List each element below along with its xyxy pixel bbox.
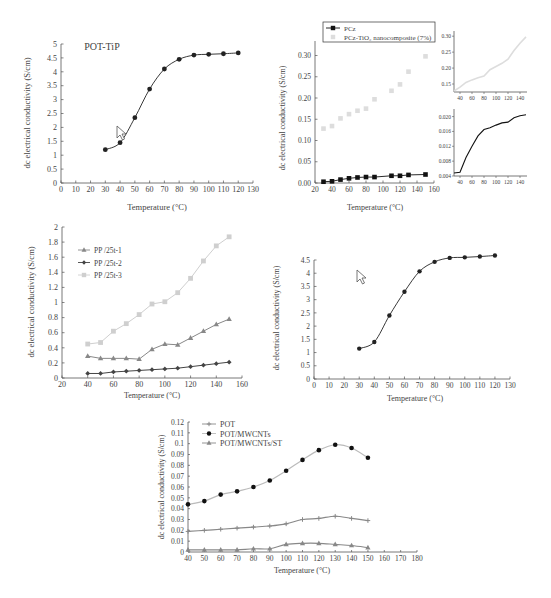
data-point — [432, 260, 436, 264]
x-tick-label: 40 — [457, 179, 463, 185]
legend-label: POT — [220, 420, 235, 429]
x-tick-label: 20 — [340, 381, 348, 390]
legend-label: POT/MWCNTs/ST — [220, 439, 282, 448]
y-tick-label: 3 — [306, 295, 310, 304]
legend-label: PP /25t-1 — [94, 246, 122, 255]
data-point — [221, 51, 226, 56]
data-point — [357, 346, 361, 350]
data-point — [364, 106, 369, 111]
y-tick-label: 0.004 — [439, 173, 452, 179]
x-tick-label: 120 — [489, 381, 501, 390]
y-tick-label: 0.25 — [298, 72, 311, 81]
data-point — [162, 341, 167, 346]
legend-item: POT — [202, 420, 235, 429]
y-tick-label: 4.5 — [301, 256, 311, 265]
data-point — [333, 442, 338, 447]
y-tick-label: 0.09 — [171, 450, 184, 459]
data-point — [188, 364, 193, 369]
x-tick-label: 70 — [416, 381, 424, 390]
x-tick-label: 60 — [401, 381, 409, 390]
data-point — [398, 82, 403, 87]
y-tick-label: 1.5 — [301, 335, 311, 344]
y-tick-label: 0 — [53, 179, 57, 188]
data-point — [132, 115, 137, 120]
data-point — [124, 369, 129, 374]
figure: 010203040506070809010011012013000.511.52… — [0, 0, 551, 598]
x-tick-label: 80 — [481, 95, 487, 101]
y-tick-label: 1 — [54, 298, 58, 307]
data-point — [188, 276, 193, 281]
data-point — [372, 97, 377, 102]
figure-caption — [22, 585, 532, 591]
data-point — [330, 124, 335, 129]
y-tick-label: 2 — [306, 322, 310, 331]
data-point — [207, 431, 211, 435]
x-tick-label: 100 — [492, 95, 501, 101]
data-point — [355, 108, 360, 113]
y-tick-label: 0.11 — [171, 429, 184, 438]
x-tick-label: 30 — [355, 381, 363, 390]
data-point — [82, 247, 87, 251]
data-point — [347, 176, 352, 181]
y-tick-label: 0 — [54, 374, 58, 383]
x-tick-label: 60 — [469, 179, 475, 185]
legend-label: PCz — [344, 25, 356, 33]
inset-line — [454, 37, 526, 91]
data-point — [82, 260, 86, 264]
y-tick-label: 0.016 — [439, 128, 452, 134]
data-point — [372, 340, 376, 344]
data-point — [111, 370, 116, 375]
data-point — [137, 312, 142, 317]
data-point — [175, 366, 180, 371]
series-pcz — [321, 172, 428, 184]
x-tick-label: 10 — [72, 185, 80, 194]
y-tick-label: 0 — [180, 548, 184, 557]
data-point — [478, 254, 482, 258]
y-tick-label: 1.5 — [47, 137, 57, 146]
x-tick-label: 130 — [330, 554, 342, 563]
data-point — [227, 234, 232, 239]
x-tick-label: 40 — [457, 95, 463, 101]
chart-panel-b: 204060801001201401600.000.050.100.150.20… — [278, 22, 527, 212]
x-tick-label: 80 — [135, 380, 143, 389]
data-point — [235, 489, 240, 494]
y-tick-label: 0.04 — [171, 504, 184, 513]
axes: 4050607080901001101201301401501601701800… — [171, 418, 423, 563]
x-tick-label: 40 — [116, 185, 124, 194]
chart-title: POT-TiP — [84, 41, 120, 52]
x-tick-label: 160 — [236, 380, 248, 389]
data-point — [300, 458, 305, 463]
x-tick-label: 140 — [516, 179, 525, 185]
y-tick-label: 3.5 — [301, 282, 311, 291]
data-point — [226, 316, 231, 321]
y-tick-label: 4.5 — [47, 54, 57, 63]
data-point — [137, 368, 142, 373]
data-point — [366, 455, 371, 460]
y-tick-label: 0.020 — [439, 114, 452, 120]
x-tick-label: 50 — [386, 381, 394, 390]
x-tick-label: 50 — [201, 554, 209, 563]
y-tick-label: 0.30 — [441, 33, 451, 39]
y-axis-label: dc electrical conductivity (S/cm) — [26, 246, 36, 357]
data-point — [321, 179, 326, 184]
x-tick-label: 120 — [313, 554, 325, 563]
x-axis-label: Temperature (°C) — [274, 566, 331, 575]
y-tick-label: 1 — [306, 348, 310, 357]
legend: POTPOT/MWCNTsPOT/MWCNTs/ST — [202, 420, 282, 448]
y-tick-label: 0.5 — [301, 361, 311, 370]
axes: 204060801001201401600.000.050.100.150.20… — [298, 41, 440, 194]
x-tick-label: 0 — [312, 381, 316, 390]
x-axis-label: Temperature (°C) — [124, 391, 181, 400]
y-tick-label: 0.8 — [48, 313, 58, 322]
data-point — [207, 440, 212, 444]
x-tick-label: 110 — [297, 554, 308, 563]
y-tick-label: 0.2 — [48, 359, 58, 368]
x-axis-label: Temperature (°C) — [127, 202, 187, 212]
x-tick-label: 100 — [159, 380, 171, 389]
x-tick-label: 60 — [469, 95, 475, 101]
x-tick-label: 120 — [504, 95, 513, 101]
legend-label: PP /25t-3 — [94, 271, 122, 280]
y-tick-label: 0.20 — [298, 94, 311, 103]
data-point — [349, 446, 354, 451]
y-tick-label: 0.25 — [441, 49, 451, 55]
